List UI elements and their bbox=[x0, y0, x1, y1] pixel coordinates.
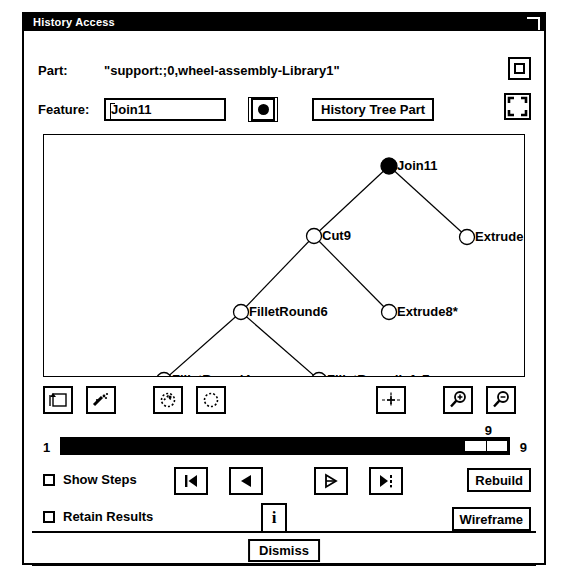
tree-edge bbox=[164, 312, 241, 376]
dotted-rect-select-button[interactable] bbox=[196, 386, 226, 414]
window-client-area: Part: "support:;0,wheel-assembly-Library… bbox=[24, 31, 544, 563]
sparkle-wand-icon bbox=[91, 391, 111, 409]
zoom-out-button[interactable] bbox=[486, 386, 516, 414]
retain-results-label: Retain Results bbox=[63, 509, 153, 524]
sparkle-wand-button[interactable] bbox=[86, 386, 116, 414]
window-title: History Access bbox=[33, 17, 115, 28]
step-slider-track[interactable]: 9 bbox=[60, 437, 510, 455]
select-feature-dot-button[interactable] bbox=[248, 97, 278, 122]
feature-input[interactable]: Join11 bbox=[104, 98, 226, 121]
fit-corners-button[interactable] bbox=[504, 93, 531, 120]
tree-node-label: Extrude8* bbox=[397, 304, 459, 319]
thumb-half-left bbox=[465, 441, 487, 451]
separator-bottom bbox=[32, 564, 536, 566]
feature-label: Feature: bbox=[38, 103, 104, 116]
tree-edge bbox=[314, 166, 389, 236]
history-tree-graph: Join11Cut9Extrude10*FilletRound6Extrude8… bbox=[44, 135, 524, 376]
skip-to-last-icon bbox=[377, 473, 395, 489]
tree-node-label: Join11 bbox=[397, 158, 437, 173]
dotted-rect-select-icon bbox=[201, 391, 221, 409]
dotted-shape-select-icon bbox=[158, 391, 178, 409]
dotted-shape-select-button[interactable] bbox=[153, 386, 183, 414]
tree-node-circle-icon bbox=[157, 373, 172, 377]
tree-edge bbox=[241, 236, 314, 312]
tree-node-join11[interactable]: Join11 bbox=[381, 158, 437, 174]
part-row: Part: "support:;0,wheel-assembly-Library… bbox=[38, 63, 340, 78]
dot-button-inner bbox=[251, 98, 275, 121]
wireframe-button[interactable]: Wireframe bbox=[452, 507, 531, 531]
zoom-in-button[interactable] bbox=[443, 386, 473, 414]
step-slider-thumb[interactable] bbox=[464, 440, 508, 452]
tree-node-filletroundinfo7[interactable]: FilletRoundInfo7 bbox=[312, 372, 430, 376]
retain-results-row[interactable]: Retain Results bbox=[43, 509, 153, 524]
first-step-button[interactable] bbox=[174, 467, 208, 495]
feature-input-value: Join11 bbox=[111, 103, 151, 116]
frame-arrow-icon bbox=[48, 391, 68, 409]
rebuild-button[interactable]: Rebuild bbox=[467, 468, 531, 492]
tree-node-extrude10[interactable]: Extrude10* bbox=[460, 229, 525, 244]
separator-top bbox=[32, 531, 536, 533]
filled-circle-icon bbox=[258, 104, 269, 115]
tree-node-label: Extrude10* bbox=[475, 229, 524, 244]
tree-node-cut9[interactable]: Cut9 bbox=[307, 228, 351, 243]
window-titlebar[interactable]: History Access bbox=[24, 14, 544, 31]
show-steps-row[interactable]: Show Steps bbox=[43, 472, 137, 487]
info-button[interactable]: i bbox=[261, 503, 287, 533]
slider-min-label: 1 bbox=[43, 440, 50, 455]
tree-node-circle-icon bbox=[312, 373, 327, 377]
tree-node-filled-circle-icon bbox=[381, 158, 397, 174]
thumb-half-right bbox=[487, 441, 508, 451]
crosshair-center-button[interactable] bbox=[376, 386, 406, 414]
step-slider-row: 1 9 9 bbox=[43, 435, 527, 459]
tree-edge bbox=[389, 166, 467, 237]
step-back-icon bbox=[237, 473, 255, 489]
tree-node-label: FilletRound4 bbox=[172, 372, 251, 376]
tree-node-extrude8[interactable]: Extrude8* bbox=[382, 304, 459, 319]
tree-nodes: Join11Cut9Extrude10*FilletRound6Extrude8… bbox=[157, 158, 525, 376]
retain-results-checkbox[interactable] bbox=[43, 511, 55, 523]
tree-node-label: Cut9 bbox=[322, 228, 351, 243]
dismiss-button[interactable]: Dismiss bbox=[248, 539, 320, 562]
resize-corner-icon[interactable] bbox=[527, 17, 540, 30]
tree-edges bbox=[164, 166, 467, 376]
last-step-button[interactable] bbox=[369, 467, 403, 495]
tree-node-label: FilletRound6 bbox=[249, 304, 328, 319]
slider-value-label: 9 bbox=[485, 423, 492, 438]
feature-row: Feature: Join11 History Tree Part bbox=[38, 97, 434, 122]
skip-to-first-icon bbox=[182, 473, 200, 489]
history-tree-canvas[interactable]: Join11Cut9Extrude10*FilletRound6Extrude8… bbox=[43, 134, 525, 377]
show-steps-label: Show Steps bbox=[63, 472, 137, 487]
history-tree-part-button[interactable]: History Tree Part bbox=[312, 98, 434, 121]
tree-node-circle-icon bbox=[234, 305, 249, 320]
history-access-window: History Access Part: "support:;0,wheel-a… bbox=[22, 12, 546, 565]
crosshair-center-icon bbox=[380, 391, 402, 409]
zoom-in-icon bbox=[448, 391, 468, 409]
tree-node-circle-icon bbox=[460, 230, 475, 245]
show-steps-checkbox[interactable] bbox=[43, 474, 55, 486]
maximize-square-icon bbox=[514, 63, 525, 74]
next-step-button[interactable] bbox=[314, 467, 348, 495]
tree-edge bbox=[314, 236, 389, 312]
frame-arrow-button[interactable] bbox=[43, 386, 73, 414]
previous-step-button[interactable] bbox=[229, 467, 263, 495]
tree-node-circle-icon bbox=[307, 229, 322, 244]
tree-edge bbox=[241, 312, 319, 376]
fit-corners-icon bbox=[506, 95, 529, 118]
tree-node-label: FilletRoundInfo7 bbox=[327, 372, 430, 376]
maximize-square-button[interactable] bbox=[508, 57, 531, 80]
tree-node-circle-icon bbox=[382, 305, 397, 320]
info-button-label: i bbox=[272, 508, 277, 528]
slider-max-label: 9 bbox=[520, 440, 527, 455]
part-value: "support:;0,wheel-assembly-Library1" bbox=[104, 63, 340, 78]
text-caret-icon bbox=[110, 103, 115, 120]
step-forward-icon bbox=[322, 473, 340, 489]
zoom-out-icon bbox=[491, 391, 511, 409]
view-toolbar bbox=[43, 386, 527, 416]
part-label: Part: bbox=[38, 64, 104, 77]
